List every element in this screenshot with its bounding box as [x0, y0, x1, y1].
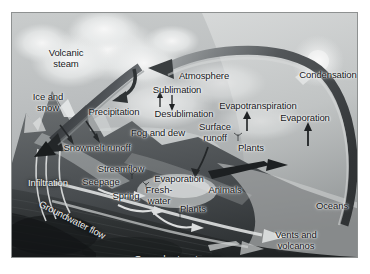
- diagram-artwork: [12, 13, 357, 257]
- water-cycle-diagram: Volcanic steam Ice and snow Precipitatio…: [11, 12, 358, 258]
- screenshot-root: Volcanic steam Ice and snow Precipitatio…: [0, 0, 370, 274]
